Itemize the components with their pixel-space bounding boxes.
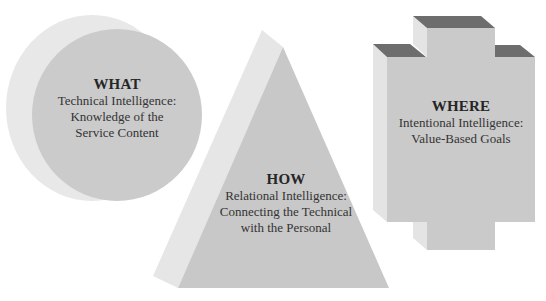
where-cross-top-right-arm (495, 45, 535, 57)
diagram-canvas (0, 0, 546, 301)
what-label: WHAT Technical Intelligence: Knowledge o… (58, 76, 177, 141)
where-cross-top-center (413, 16, 495, 28)
how-line-2: Connecting the Technical (220, 204, 352, 220)
what-line-3: Service Content (58, 125, 177, 141)
what-line-2: Knowledge of the (58, 109, 177, 125)
where-cross-side-left-arm (373, 44, 387, 222)
where-title: WHERE (399, 98, 524, 115)
how-line-1: Relational Intelligence: (220, 188, 352, 204)
where-line-2: Value-Based Goals (399, 131, 524, 147)
what-line-1: Technical Intelligence: (58, 93, 177, 109)
how-title: HOW (220, 171, 352, 188)
how-line-3: with the Personal (220, 220, 352, 236)
where-label: WHERE Intentional Intelligence: Value-Ba… (399, 98, 524, 147)
where-line-1: Intentional Intelligence: (399, 115, 524, 131)
how-label: HOW Relational Intelligence: Connecting … (220, 171, 352, 236)
what-title: WHAT (58, 76, 177, 93)
